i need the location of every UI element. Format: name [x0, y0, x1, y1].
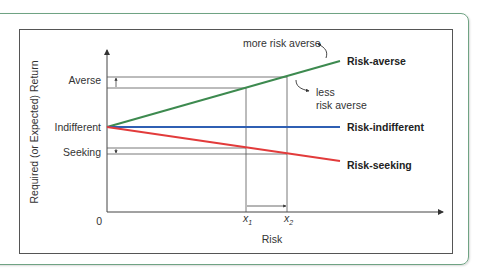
risk-seeking-label: Risk-seeking	[347, 159, 412, 171]
origin-label: 0	[96, 215, 102, 227]
x2-label: x2	[283, 212, 293, 226]
risk-return-chart: Required (or Expected) Return Averse Ind…	[0, 0, 477, 271]
averse-label: Averse	[69, 74, 102, 86]
less-annotation-line1: less	[316, 86, 335, 98]
risk-averse-line	[107, 61, 340, 127]
risk-averse-label: Risk-averse	[347, 55, 406, 67]
x-axis-label: Risk	[262, 233, 283, 245]
y-axis-label: Required (or Expected) Return	[28, 60, 40, 203]
risk-indifferent-label: Risk-indifferent	[347, 121, 425, 133]
indifferent-label: Indifferent	[54, 121, 101, 133]
x1-label: x1	[242, 212, 252, 226]
less-annotation-line2: risk averse	[316, 99, 367, 111]
less-averse-arrow	[296, 80, 309, 91]
more-risk-averse-annotation: more risk averse	[243, 37, 321, 49]
risk-seeking-line	[107, 127, 340, 161]
seeking-label: Seeking	[63, 146, 101, 158]
